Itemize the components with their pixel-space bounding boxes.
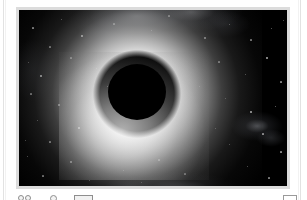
scale-bar-icon[interactable]: Scale bar [74, 195, 93, 200]
page-edge-rule-left [3, 0, 4, 200]
star-point [215, 128, 216, 129]
aperture-circle-icon[interactable]: Aperture [50, 195, 57, 200]
star-point [271, 28, 272, 29]
star-point [245, 74, 246, 75]
nebula-top [19, 10, 287, 186]
star-point [280, 151, 281, 152]
star-point [151, 30, 152, 31]
star-point [30, 93, 31, 94]
star-point [81, 35, 83, 37]
star-point [49, 141, 50, 142]
starfield [19, 10, 287, 186]
star-point [42, 175, 43, 176]
black-hole-shadow [108, 64, 166, 120]
star-point [49, 46, 50, 47]
star-point [280, 81, 281, 82]
binoculars-icon[interactable]: Observe [18, 195, 33, 200]
star-point [40, 75, 42, 77]
star-point [58, 104, 59, 105]
star-point [158, 159, 159, 160]
aperture-label: Aperture [51, 196, 52, 197]
star-point [266, 57, 267, 58]
star-point [78, 127, 80, 129]
star-point [218, 61, 219, 62]
astronomy-image[interactable]: Black hole silhouette with bright glowin… [19, 10, 287, 186]
star-point [25, 140, 26, 141]
star-point [250, 39, 251, 40]
binoculars-lens-right [25, 195, 31, 200]
halo-hotspot [59, 52, 209, 180]
page-edge-rule-right [300, 0, 301, 200]
binoculars-lens-left [18, 195, 24, 200]
page-edge-rule-right-inner [298, 0, 299, 200]
page-edge-rule-left-inner [5, 0, 6, 200]
star-point [123, 170, 124, 171]
document-page: Black hole silhouette with bright glowin… [0, 0, 307, 200]
star-point [250, 111, 252, 113]
star-point [225, 98, 226, 99]
star-point [32, 27, 33, 28]
star-point [61, 19, 62, 20]
star-point [199, 86, 200, 87]
star-point [275, 106, 276, 107]
star-point [229, 24, 230, 25]
panel-box-icon[interactable]: Panel [283, 195, 297, 200]
nebula-bottom [19, 10, 287, 186]
star-point [28, 62, 29, 63]
star-point [247, 166, 248, 167]
star-point [262, 133, 263, 134]
star-point [37, 120, 38, 121]
star-point [89, 180, 90, 181]
panel-box-label: Panel [284, 196, 285, 197]
star-point [184, 173, 185, 174]
figure-frame[interactable]: Black hole silhouette with bright glowin… [16, 7, 290, 189]
accretion-halo [19, 10, 262, 186]
figure-caption: Black hole silhouette with bright glowin… [19, 10, 20, 11]
star-point [107, 86, 108, 87]
star-point [168, 15, 169, 16]
star-point [204, 37, 205, 38]
star-point [141, 182, 142, 183]
bottom-toolbar: Observe Aperture Scale bar Panel [0, 193, 307, 200]
star-point [70, 161, 71, 162]
nebula-right [19, 10, 287, 186]
scale-bar-label: Scale bar [75, 196, 76, 197]
nebula-left [19, 10, 287, 186]
star-point [229, 144, 230, 145]
star-point [113, 23, 114, 24]
star-point [268, 177, 269, 178]
star-point [96, 68, 97, 69]
star-point [70, 57, 71, 58]
star-point [27, 156, 28, 157]
star-point [283, 20, 284, 21]
